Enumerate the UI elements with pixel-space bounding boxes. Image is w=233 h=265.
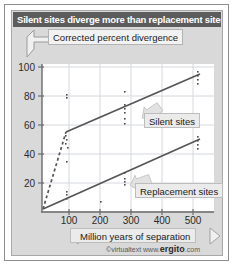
credit-line: ©virtualtext www.ergito.com bbox=[106, 244, 200, 254]
y-axis-caption: Corrected percent divergence bbox=[48, 29, 183, 45]
figure-title: Silent sites diverge more than replaceme… bbox=[13, 12, 221, 27]
callout-silent-sites: Silent sites bbox=[144, 113, 200, 128]
credit-suffix: .com bbox=[185, 246, 200, 253]
x-axis-caption: Million years of separation bbox=[70, 228, 196, 243]
callout-replacement-sites: Replacement sites bbox=[135, 183, 223, 198]
credit-prefix: ©virtualtext www. bbox=[106, 246, 160, 253]
figure-container: Silent sites diverge more than replaceme… bbox=[0, 0, 233, 265]
credit-brand: ergito bbox=[160, 244, 185, 254]
